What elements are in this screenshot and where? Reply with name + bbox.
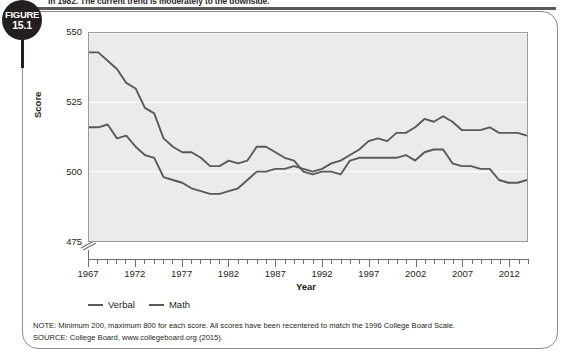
legend-item-math: Math [149, 299, 190, 310]
chart-legend: VerbalMath [88, 299, 190, 310]
x-tick [238, 259, 239, 264]
x-tick [275, 259, 276, 267]
x-tick [210, 259, 211, 264]
x-tick-label: 1977 [162, 268, 202, 279]
x-tick [154, 259, 155, 264]
x-tick-label: 2002 [396, 268, 436, 279]
x-tick [247, 259, 248, 264]
x-tick [172, 259, 173, 264]
figure-notes: NOTE: Minimum 200, maximum 800 for each … [33, 320, 553, 343]
x-tick-label: 1987 [255, 268, 295, 279]
x-tick [472, 259, 473, 264]
figure-badge-stem [21, 38, 24, 68]
y-axis-title: Score [32, 92, 43, 118]
x-tick [135, 259, 136, 267]
figure-badge: FIGURE 15.1 [2, 0, 42, 40]
x-tick [341, 259, 342, 264]
legend-swatch-icon [88, 304, 103, 306]
legend-item-verbal: Verbal [88, 299, 135, 310]
x-tick [491, 259, 492, 264]
x-tick [322, 259, 323, 267]
x-tick [388, 259, 389, 264]
x-tick [369, 259, 370, 267]
x-tick [519, 259, 520, 264]
x-tick [97, 259, 98, 264]
x-tick [228, 259, 229, 267]
x-tick [453, 259, 454, 264]
x-tick-label: 1982 [208, 268, 248, 279]
x-tick-label: 1972 [115, 268, 155, 279]
x-tick-label: 2007 [442, 268, 482, 279]
figure-rule [36, 7, 556, 10]
x-tick [294, 259, 295, 264]
figure-badge-number: 15.1 [12, 20, 32, 31]
x-axis-title: Year [0, 281, 572, 292]
x-tick [462, 259, 463, 267]
note-text: NOTE: Minimum 200, maximum 800 for each … [33, 320, 553, 332]
source-text: SOURCE: College Board, www.collegeboard.… [33, 332, 553, 344]
y-tick-label: 525 [50, 96, 82, 107]
x-tick [285, 259, 286, 264]
x-tick [200, 259, 201, 264]
x-tick [397, 259, 398, 264]
x-tick [406, 259, 407, 264]
x-tick [88, 259, 89, 267]
x-tick [219, 259, 220, 264]
x-tick-label: 1992 [302, 268, 342, 279]
x-axis-ticks [88, 259, 529, 268]
x-tick [266, 259, 267, 264]
x-tick [313, 259, 314, 264]
x-tick [116, 259, 117, 264]
plot-area [88, 32, 528, 242]
x-tick [163, 259, 164, 264]
x-tick [378, 259, 379, 264]
figure-badge-label: FIGURE [5, 10, 39, 20]
x-tick [528, 259, 529, 264]
x-tick [303, 259, 304, 264]
y-tick-label: 550 [50, 26, 82, 37]
x-tick [144, 259, 145, 264]
x-tick [444, 259, 445, 264]
x-tick-label: 1997 [349, 268, 389, 279]
x-tick [359, 259, 360, 264]
y-tick-label: 500 [50, 166, 82, 177]
x-axis-title-text: Year [296, 281, 316, 292]
x-tick [182, 259, 183, 267]
legend-label: Verbal [108, 299, 135, 310]
x-tick [434, 259, 435, 264]
x-tick [191, 259, 192, 264]
chart: Score 475500525550 196719721977198219871… [0, 0, 572, 363]
x-tick [425, 259, 426, 264]
x-tick [107, 259, 108, 264]
x-tick [481, 259, 482, 264]
x-tick [500, 259, 501, 264]
x-tick [416, 259, 417, 267]
x-tick-label: 1967 [68, 268, 108, 279]
x-tick [257, 259, 258, 264]
legend-swatch-icon [149, 304, 164, 306]
x-tick [125, 259, 126, 264]
x-tick [331, 259, 332, 264]
x-tick-label: 2012 [489, 268, 529, 279]
x-tick [509, 259, 510, 267]
legend-label: Math [169, 299, 190, 310]
plot-svg [89, 33, 527, 241]
x-tick [350, 259, 351, 264]
y-tick-label: 475 [50, 236, 82, 247]
